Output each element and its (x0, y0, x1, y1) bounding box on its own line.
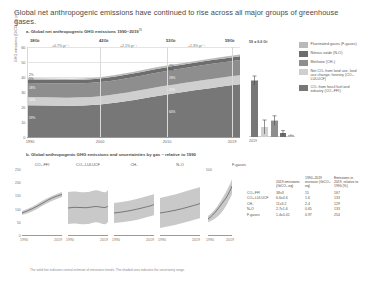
bar-inset-chart (249, 47, 295, 137)
subplot-ytick-200: 200 (15, 181, 21, 185)
panel-a-rate-2000s: +2.1% yr⁻¹ (120, 44, 137, 48)
legend-swatch-ffi-icon (299, 85, 308, 91)
subplot-plot-n2o: 1990 2019 (160, 170, 200, 236)
table-header-gas (247, 176, 276, 190)
legend-label-lulucf: Net CO₂ from land use, land use change, … (311, 69, 364, 82)
legend-label-ch4: Methane (CH₄) (311, 60, 336, 64)
figure-root: Global net anthropogenic emissions have … (0, 0, 365, 284)
panel-a-xtick-1990: 1990 (26, 139, 35, 144)
panel-a-title-text: a. Global net anthropogenic GHG emission… (26, 29, 139, 34)
legend-swatch-n2o-icon (299, 51, 308, 57)
subplot-title-n2o: N₂O (176, 162, 183, 167)
panel-b-title: b. Global anthropogenic GHG emissions an… (26, 152, 196, 157)
panel-a-total-1990: 38Gt (30, 38, 39, 43)
subplot-co2-lulucf: CO₂-LULUCF 1990 2019 (68, 162, 108, 250)
panel-a-title-note: 70 (139, 28, 142, 32)
panel-a-share-2019-lulucf: 11% (169, 89, 175, 93)
panel-a-ytick-40: 40 (21, 75, 25, 80)
subplot-ytick-150: 150 (15, 194, 21, 198)
panel-a-total-2019: 59Gt (225, 38, 234, 43)
subplot-plot-co2-lulucf: 1990 2019 (68, 170, 108, 236)
subplot-xtick-1990-fgases: 1990 (206, 238, 214, 242)
subplot-ytick-100: 100 (15, 208, 21, 212)
table-row: F-gases 1.4±0.41 0.97 254 (247, 212, 364, 218)
table-cell-relative-fgases: 254 (334, 212, 364, 218)
panel-a-share-2019-ch4: 18% (169, 77, 175, 81)
subplot-title-co2-ffi: CO₂-FFI (35, 162, 49, 167)
legend-label-ffi: CO₂ from fossil fuel and industry (CO₂-F… (311, 85, 364, 94)
summary-table: 2019 emissions (GtCO₂-eq) 1990–2019 incr… (247, 176, 364, 218)
legend-item-fgases[interactable]: Fluorinated gases (F-gases) (299, 42, 363, 48)
subplot-xtick-2019-fgases: 2019 (226, 238, 234, 242)
legend-swatch-ch4-icon (299, 60, 308, 66)
subplot-ytick-250: 250 (15, 168, 21, 172)
panel-a-annotation-rate-2000s: +2.1% yr⁻¹ (120, 44, 137, 48)
subplot-ytick-500: 500 (206, 168, 212, 172)
legend-item-ffi[interactable]: CO₂ from fossil fuel and industry (CO₂-F… (299, 85, 363, 94)
panel-a-annotation-rate-2010s: +1.3% yr⁻¹ (188, 44, 205, 48)
table-cell-emissions-fgases: 1.4±0.41 (276, 212, 305, 218)
table-header-relative: Emissions in 2019, relative to 1990 (%) (334, 176, 364, 190)
panel-a-ytick-20: 20 (21, 105, 25, 110)
subplot-xtick-2019-lulucf: 2019 (100, 238, 108, 242)
subplot-xtick-2019-n2o: 2019 (192, 238, 200, 242)
panel-a-share-1990-lulucf: 16% (29, 99, 35, 103)
subplot-xtick-1990-lulucf: 1990 (66, 238, 74, 242)
subplot-title-ch4: CH₄ (130, 162, 137, 167)
legend-item-lulucf[interactable]: Net CO₂ from land use, land use change, … (299, 69, 363, 82)
legend-swatch-fgases-icon (299, 42, 308, 48)
panel-a-xtick-2019: 2019 (228, 139, 237, 144)
bar-inset-xtick-2019: 2019 (249, 139, 257, 143)
panel-a-share-1990-ffi: 59% (29, 117, 35, 121)
panel-a-ytick-30: 30 (21, 90, 25, 95)
panel-b-subplots: CO₂-FFI 250 200 150 100 50 0 1990 2019 C… (22, 162, 232, 250)
subplot-plot-co2-ffi: 250 200 150 100 50 0 1990 2019 (22, 170, 62, 236)
panel-a-rate-1990s: +0.7% yr⁻¹ (52, 44, 69, 48)
panel-a-share-1990-ch4: 18% (29, 87, 35, 91)
panel-a-legend: Fluorinated gases (F-gases) Nitrous oxid… (299, 42, 363, 97)
panel-a-stacked-areas (27, 47, 240, 137)
panel-a-ytick-10: 10 (21, 120, 25, 125)
subplot-xtick-1990-ffi: 1990 (20, 238, 28, 242)
table-header-increase: 1990–2019 increase (GtCO₂-eq) (305, 176, 334, 190)
subplot-xtick-2019-ch4: 2019 (146, 238, 154, 242)
subplot-title-fgases: F-gases (232, 162, 246, 167)
subplot-ch4: CH₄ 1990 2019 (114, 162, 154, 250)
panel-a-xtick-2010: 2010 (163, 139, 172, 144)
panel-a-share-1990-n2o: 5% (29, 78, 33, 82)
figure-headline: Global net anthropogenic emissions have … (14, 8, 354, 26)
panel-a-y-axis-label: GHG emissions (GtCO₂-eq yr⁻¹) (14, 0, 18, 62)
panel-a-share-2019-ffi: 64% (169, 111, 175, 115)
subplot-plot-fgases: 500 1990 2019 (208, 170, 232, 236)
bar-inset-title: 59 ± 6.6 Gt (249, 40, 267, 44)
panel-a-annotation-total-2000: 42Gt (99, 38, 108, 43)
subplot-xtick-2019-ffi: 2019 (54, 238, 62, 242)
subplot-co2-ffi: CO₂-FFI 250 200 150 100 50 0 1990 2019 (22, 162, 62, 250)
subplot-xtick-1990-n2o: 1990 (158, 238, 166, 242)
legend-item-n2o[interactable]: Nitrous oxide (N₂O) (299, 51, 363, 57)
panel-a-share-2019-n2o: 5% (169, 69, 173, 73)
subplot-title-co2-lulucf: CO₂-LULUCF (76, 162, 100, 167)
panel-a-annotation-total-2010: 53Gt (166, 38, 175, 43)
panel-a-total-2000: 42Gt (99, 38, 108, 43)
panel-a-annotation-total-2019: 59Gt (225, 38, 234, 43)
subplot-fgases: F-gases 500 1990 2019 (208, 162, 232, 250)
panel-a-rate-2010s: +1.3% yr⁻¹ (188, 44, 205, 48)
subplot-xtick-1990-ch4: 1990 (112, 238, 120, 242)
panel-a-annotation-total-1990: 38Gt (30, 38, 39, 43)
panel-a-chart: 60 50 40 30 20 10 0 1990 (27, 47, 240, 137)
panel-a-annotation-rate-1990s: +0.7% yr⁻¹ (52, 44, 69, 48)
panel-a-ytick-50: 50 (21, 60, 25, 65)
table-header-emissions: 2019 emissions (GtCO₂-eq) (276, 176, 305, 190)
subplot-ytick-50: 50 (17, 221, 21, 225)
legend-label-n2o: Nitrous oxide (N₂O) (311, 51, 343, 55)
panel-b-footnote: The solid line indicates central estimat… (30, 268, 185, 272)
table-cell-gas-fgases: F-gases (247, 212, 276, 218)
panel-a-ytick-60: 60 (21, 45, 25, 50)
subplot-n2o: N₂O 1990 2019 (160, 162, 200, 250)
subplot-plot-ch4: 1990 2019 (114, 170, 154, 236)
legend-label-fgases: Fluorinated gases (F-gases) (311, 42, 357, 46)
table-header-row: 2019 emissions (GtCO₂-eq) 1990–2019 incr… (247, 176, 364, 190)
legend-item-ch4[interactable]: Methane (CH₄) (299, 60, 363, 66)
panel-a-total-2010: 53Gt (166, 38, 175, 43)
